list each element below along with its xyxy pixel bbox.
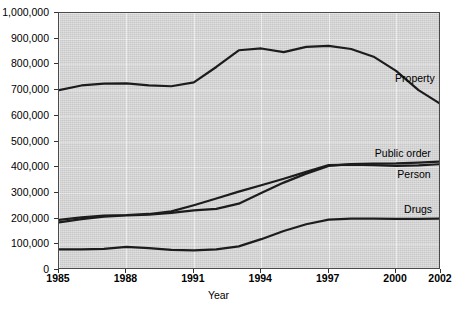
series-label: Drugs xyxy=(404,203,432,215)
line-chart: 0100,000200,000300,000400,000500,000600,… xyxy=(0,0,463,309)
x-tick-mark xyxy=(260,269,261,273)
x-axis-title-text: Year xyxy=(208,289,229,301)
x-tick-label: 2000 xyxy=(383,272,406,284)
x-tick-label: 1991 xyxy=(181,272,204,284)
x-tick-mark xyxy=(193,269,194,273)
x-tick-mark xyxy=(395,269,396,273)
x-tick-label: 1985 xyxy=(46,272,69,284)
x-tick-mark xyxy=(125,269,126,273)
x-tick-label: 1997 xyxy=(316,272,339,284)
x-tick-mark xyxy=(58,269,59,273)
x-tick-label: 1994 xyxy=(249,272,272,284)
x-tick-mark xyxy=(440,269,441,273)
series-label: Property xyxy=(395,72,435,84)
series-label: Public order xyxy=(375,147,431,159)
x-tick-mark xyxy=(328,269,329,273)
x-axis-title: Year xyxy=(0,289,463,301)
series-label: Person xyxy=(397,168,430,180)
x-tick-label: 2002 xyxy=(428,272,451,284)
x-tick-label: 1988 xyxy=(114,272,137,284)
